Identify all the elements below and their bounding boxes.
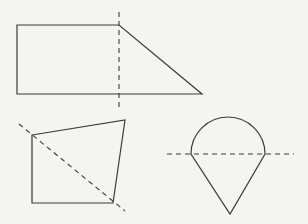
figure-teardrop — [167, 117, 294, 214]
quadrilateral-dashed-line — [19, 124, 125, 211]
figure-quadrilateral — [19, 120, 125, 211]
quadrilateral-outline — [32, 120, 125, 203]
figure-trapezoid — [17, 12, 202, 108]
trapezoid-outline — [17, 25, 202, 94]
diagram-canvas — [0, 0, 308, 224]
teardrop-outline — [191, 117, 265, 214]
